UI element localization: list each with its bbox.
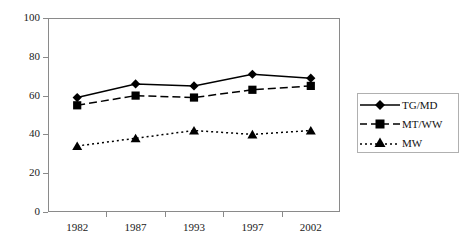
line-chart: 100806040200 19821987199319972002 TG/MD … xyxy=(0,0,469,246)
legend: TG/MD MT/WW MW xyxy=(357,93,459,153)
data-point-marker xyxy=(131,79,140,88)
data-point-marker xyxy=(306,74,315,83)
legend-entry-0[interactable]: TG/MD xyxy=(358,95,460,115)
data-point-marker xyxy=(248,70,257,79)
legend-label-2: MW xyxy=(402,138,422,149)
data-point-marker xyxy=(132,92,140,100)
data-point-marker xyxy=(73,101,81,109)
data-point-marker xyxy=(248,86,256,94)
legend-label-0: TG/MD xyxy=(402,100,437,111)
legend-marker-diamond-icon xyxy=(358,96,402,114)
data-point-marker xyxy=(190,93,198,101)
data-point-marker xyxy=(131,134,141,143)
data-point-marker xyxy=(307,82,315,90)
data-point-marker xyxy=(73,93,82,102)
data-point-marker xyxy=(72,141,82,150)
series-mw xyxy=(72,126,316,150)
data-point-marker xyxy=(247,130,257,139)
legend-entry-2[interactable]: MW xyxy=(358,133,460,153)
legend-label-1: MT/WW xyxy=(402,119,442,130)
data-point-marker xyxy=(189,81,198,90)
legend-entry-1[interactable]: MT/WW xyxy=(358,114,460,134)
legend-marker-triangle-icon xyxy=(358,134,402,152)
legend-marker-square-icon xyxy=(358,115,402,133)
